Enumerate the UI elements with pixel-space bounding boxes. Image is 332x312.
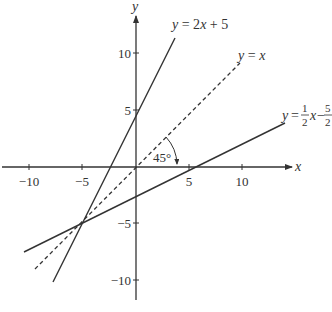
angle-label: 45°	[153, 150, 171, 165]
svg-text:x: x	[309, 108, 317, 123]
svg-text:5: 5	[325, 102, 331, 114]
y-tick-label: 10	[118, 46, 131, 61]
x-tick-label: 10	[236, 174, 249, 189]
svg-text:=: =	[291, 108, 299, 123]
x-tick-label: 5	[186, 174, 193, 189]
y-axis-label: y	[130, 0, 139, 14]
svg-text:−: −	[317, 108, 325, 123]
coordinate-plane: x y −10 −5 5 10 10 5 −5 −10 45° y = 2x +…	[0, 0, 332, 312]
y-tick-label: −5	[117, 216, 131, 231]
x-tick-label: −5	[75, 174, 89, 189]
y-tick-label: 5	[125, 103, 132, 118]
y-tick-label: −10	[111, 273, 131, 288]
label-line-y-equals-x: y = x	[236, 48, 266, 63]
label-line-half-x-minus-five-halves: y = 1 2 x − 5 2	[280, 102, 332, 128]
label-line-2x-plus-5: y = 2x + 5	[170, 17, 228, 32]
x-axis-label: x	[294, 159, 302, 174]
line-y-equals-x	[35, 63, 240, 269]
svg-text:1: 1	[302, 102, 308, 114]
svg-text:y: y	[280, 108, 289, 123]
svg-text:2: 2	[325, 116, 331, 128]
x-tick-label: −10	[19, 174, 39, 189]
svg-text:2: 2	[302, 116, 308, 128]
